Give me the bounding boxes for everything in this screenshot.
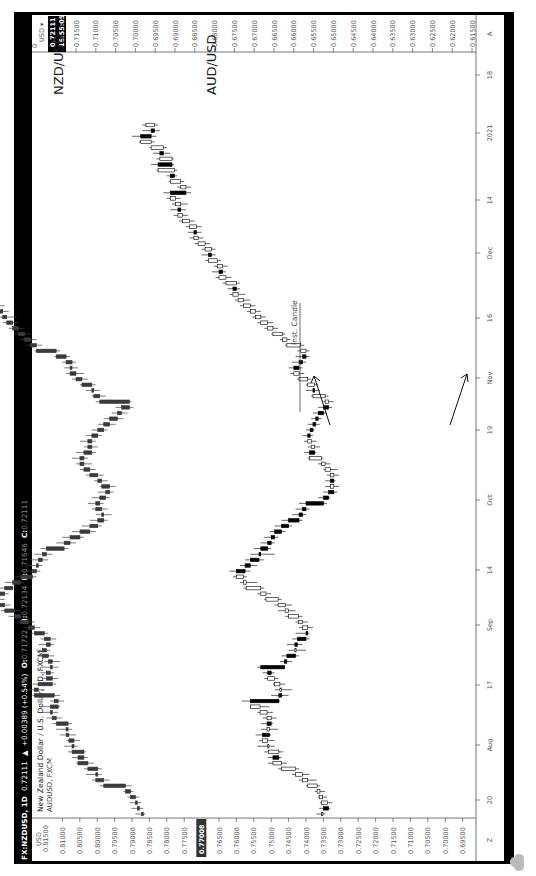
candle	[7, 321, 13, 325]
candle	[94, 394, 100, 398]
candle	[316, 417, 318, 421]
candle	[25, 338, 31, 342]
left-axis-tick-label: 0.72000	[372, 827, 380, 854]
candle	[209, 253, 212, 257]
candle	[170, 180, 180, 184]
symbol-ohlc-text: FX:NZDUSD, 1D 0.72111 ▲ +0.00389 (+0.54%…	[20, 500, 29, 860]
right-axis-tick-label: 0.69000	[172, 20, 180, 47]
candle	[178, 214, 183, 218]
candle	[299, 360, 302, 364]
candle	[299, 513, 302, 517]
left-axis-tick-label: 0.78000	[163, 827, 171, 854]
candle	[219, 276, 226, 280]
right-axis-tick-label: 0.68500	[191, 20, 199, 47]
candle	[181, 185, 186, 189]
tradingview-chart-screenshot: FX:NZDUSD, 1D 0.72111 ▲ +0.00389 (+0.54%…	[0, 0, 536, 876]
inst-candle-label[interactable]: Inst. Candle	[290, 300, 299, 345]
candle	[325, 468, 330, 472]
candle	[52, 716, 56, 720]
candle	[198, 242, 205, 246]
candle	[13, 581, 21, 585]
left-axis-tick-label: 0.81000	[59, 827, 67, 854]
right-axis-currency-dropdown[interactable]: USD ▾	[38, 22, 46, 42]
candle	[322, 812, 323, 816]
candle	[182, 219, 189, 223]
time-axis-label: 16	[486, 314, 494, 322]
left-axis-tick-label: 0.81500	[42, 825, 50, 852]
candle	[90, 524, 98, 528]
candle	[268, 327, 273, 331]
legend-main-series[interactable]: New Zealand Dollar / U.S. Dollar, 1D, FX…	[36, 651, 45, 812]
right-axis-tick-label: 0.64500	[350, 20, 358, 47]
candle	[34, 688, 38, 692]
left-axis-tick-label: 0.70000	[442, 827, 450, 854]
candle	[46, 671, 50, 675]
right-axis-tick-label: 0.69500	[152, 20, 160, 47]
candle	[122, 406, 130, 410]
candle	[330, 473, 333, 477]
candle	[330, 479, 333, 483]
candle	[311, 445, 314, 449]
candle	[56, 722, 68, 726]
candle	[313, 423, 316, 427]
candle	[3, 315, 7, 319]
candle	[194, 236, 198, 240]
candle	[46, 677, 52, 681]
candle	[330, 485, 333, 489]
candle	[42, 648, 46, 652]
last-price: 0.72111	[20, 761, 29, 791]
candle	[245, 564, 250, 568]
candle	[268, 750, 278, 754]
candle	[306, 502, 323, 506]
candle	[313, 394, 325, 398]
candle	[98, 479, 102, 483]
candle	[82, 383, 92, 387]
candle	[303, 355, 306, 359]
candle	[194, 231, 196, 235]
audusd-label[interactable]: AUD/USD	[204, 34, 219, 95]
candle	[243, 304, 250, 308]
chart-canvas[interactable]: FX:NZDUSD, 1D 0.72111 ▲ +0.00389 (+0.54%…	[0, 0, 536, 876]
right-axis-tick-label: 0.70000	[132, 20, 140, 47]
nzdusd-label[interactable]: NZD/USD	[51, 34, 66, 95]
timezone-button[interactable]: Z	[486, 837, 494, 842]
candle	[294, 366, 299, 370]
candle	[21, 620, 29, 624]
candle	[275, 530, 282, 534]
candle	[261, 547, 268, 551]
candle	[96, 507, 102, 511]
candle	[205, 247, 211, 251]
time-axis-label: 17	[486, 681, 494, 689]
right-axis-tick-label: 0.64000	[370, 20, 378, 47]
candle	[306, 632, 308, 636]
left-axis-tick-label: 0.71000	[407, 827, 415, 854]
candle	[322, 462, 325, 466]
candle	[50, 665, 52, 669]
right-axis-tick-label: 0.71000	[92, 20, 100, 47]
candle	[310, 428, 313, 432]
candle	[32, 569, 36, 573]
left-axis-tick-label: 0.78500	[146, 827, 154, 854]
candle	[323, 496, 328, 500]
time-axis-label: 14	[486, 196, 494, 204]
candle	[110, 417, 118, 421]
left-axis-tick-label: 0.72500	[355, 827, 363, 854]
candle	[259, 552, 261, 556]
crosshair-price-label: 0.77008	[198, 824, 206, 854]
legend-compare-series[interactable]: AUDUSD, FXCM	[46, 758, 54, 812]
auto-scale-button[interactable]: A	[486, 31, 494, 36]
candle	[319, 795, 322, 799]
candle	[141, 135, 151, 139]
candle	[266, 598, 278, 602]
candle	[325, 400, 328, 404]
candle	[98, 428, 104, 432]
time-axis-label: 14	[486, 566, 494, 574]
candle	[217, 264, 222, 268]
candle	[282, 524, 289, 528]
candle	[176, 202, 181, 206]
candle	[246, 586, 261, 590]
left-axis-tick-label: 0.74500	[285, 827, 293, 854]
candle	[56, 355, 66, 359]
candle	[19, 332, 25, 336]
left-axis-tick-label: 0.71500	[390, 827, 398, 854]
